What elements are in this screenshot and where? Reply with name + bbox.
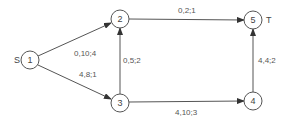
edge-3-4 — [129, 101, 244, 102]
source-label: S — [14, 55, 20, 65]
edge-1-3 — [38, 65, 111, 99]
node-4-label: 4 — [250, 96, 255, 106]
edge-label-3-2: 0,5;2 — [123, 56, 141, 65]
node-1-label: 1 — [27, 55, 32, 65]
node-2: 2 — [111, 10, 129, 28]
node-5-label: 5 — [250, 15, 255, 25]
node-4: 4 — [244, 92, 262, 110]
edge-2-5 — [129, 19, 244, 20]
edge-label-4-5: 4,4;2 — [258, 56, 276, 65]
node-2-label: 2 — [117, 14, 122, 24]
flow-network-diagram: 0,10;4 4,8;1 0,5;2 0,2;1 4,10;3 4,4;2 1 … — [0, 0, 294, 121]
edge-label-1-3: 4,8;1 — [79, 70, 97, 79]
node-3: 3 — [111, 94, 129, 112]
node-3-label: 3 — [117, 98, 122, 108]
edge-label-3-4: 4,10;3 — [175, 108, 198, 117]
edge-label-2-5: 0,2;1 — [178, 6, 196, 15]
node-1: 1 — [21, 51, 39, 69]
edge-label-1-2: 0,10;4 — [74, 49, 97, 58]
sink-label: T — [266, 15, 272, 25]
node-5: 5 — [244, 11, 262, 29]
